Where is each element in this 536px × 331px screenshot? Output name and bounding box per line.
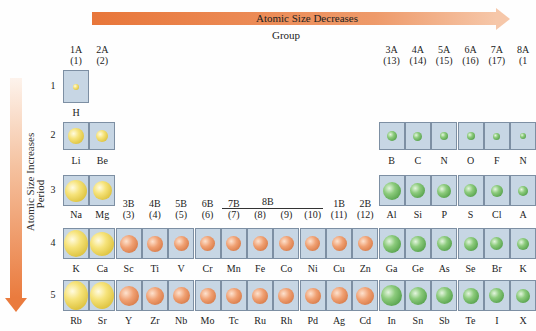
group-header: 7A(17): [484, 44, 510, 66]
group-label-b: (4): [142, 209, 168, 220]
element-cell-tc: [221, 280, 247, 311]
element-cell-a: [510, 175, 536, 206]
atom-sphere-icon: [173, 287, 190, 304]
element-symbol: Ti: [142, 263, 168, 274]
element-symbol: Sn: [405, 315, 431, 326]
element-symbol: Zn: [352, 263, 378, 274]
element-symbol: Sb: [431, 315, 457, 326]
group-label-a: 8A: [510, 44, 536, 55]
group-label-b: (3): [116, 209, 142, 220]
atom-sphere-icon: [358, 236, 373, 251]
element-symbol: Pd: [300, 315, 326, 326]
element-symbol: Mn: [221, 263, 247, 274]
atom-sphere-icon: [174, 236, 189, 251]
element-symbol: Y: [116, 315, 142, 326]
element-cell-nb: [168, 280, 194, 311]
element-cell-i: [484, 280, 510, 311]
atom-sphere-icon: [517, 238, 529, 250]
atom-sphere-icon: [518, 186, 528, 196]
element-symbol: I: [484, 315, 510, 326]
group-header: 5B(5): [168, 198, 194, 220]
element-symbol: Br: [484, 263, 510, 274]
element-symbol: Li: [63, 155, 89, 166]
element-cell-cl: [484, 175, 510, 206]
group-header: (9): [273, 198, 299, 220]
element-cell-f: [484, 122, 510, 150]
element-cell-na: [63, 175, 89, 206]
element-symbol: Se: [458, 263, 484, 274]
element-cell-ge: [405, 228, 431, 259]
group-label-a: 6B: [195, 198, 221, 209]
atom-sphere-icon: [147, 236, 163, 252]
group-label-a: 6A: [458, 44, 484, 55]
arrow-head-right-icon: [496, 8, 510, 30]
group-label-a: [300, 198, 326, 209]
group-label-b: (15): [431, 55, 457, 66]
element-symbol: Co: [273, 263, 299, 274]
element-symbol: S: [458, 209, 484, 220]
element-symbol: Mg: [89, 209, 115, 220]
group-label-a: 3B: [116, 198, 142, 209]
element-cell-p: [431, 175, 457, 206]
atom-sphere-icon: [490, 237, 503, 250]
element-symbol: Fe: [247, 263, 273, 274]
element-symbol: P: [431, 209, 457, 220]
element-cell-mn: [221, 228, 247, 259]
group-header: 8A(1: [510, 44, 536, 66]
element-cell-br: [484, 228, 510, 259]
element-symbol: B: [379, 155, 405, 166]
element-symbol: Rh: [273, 315, 299, 326]
element-symbol: Sr: [89, 315, 115, 326]
element-symbol: F: [484, 155, 510, 166]
element-symbol: N: [510, 155, 536, 166]
group-label-a: 4B: [142, 198, 168, 209]
element-cell-co: [273, 228, 299, 259]
group-header: 1B(11): [326, 198, 352, 220]
period-axis-title: Period: [34, 164, 46, 224]
element-symbol: Sc: [116, 263, 142, 274]
group-label-b: (12): [352, 209, 378, 220]
group-axis-title: Group: [272, 29, 300, 41]
group-header: 3A(13): [379, 44, 405, 66]
atom-sphere-icon: [464, 237, 478, 251]
element-cell-n: [510, 122, 536, 150]
atom-sphere-icon: [410, 236, 426, 252]
atomic-size-decreases-label: Atomic Size Decreases: [256, 12, 358, 25]
atom-sphere-icon: [96, 130, 108, 142]
arrow-head-down-icon: [5, 298, 27, 312]
atom-sphere-icon: [65, 180, 87, 202]
group-header: 1A(1): [63, 44, 89, 66]
atom-sphere-icon: [200, 236, 215, 251]
atom-sphere-icon: [383, 182, 401, 200]
group-label-b: (17): [484, 55, 510, 66]
element-symbol: Cu: [326, 263, 352, 274]
atom-sphere-icon: [491, 185, 503, 197]
element-symbol: As: [431, 263, 457, 274]
atom-sphere-icon: [90, 232, 114, 256]
atomic-size-increases-arrow: [10, 78, 22, 298]
element-cell-rb: [63, 280, 89, 311]
element-symbol: O: [458, 155, 484, 166]
group-label-b: (1: [510, 55, 536, 66]
element-symbol: Rb: [63, 315, 89, 326]
element-symbol: Ge: [405, 263, 431, 274]
group-label-a: 1B: [326, 198, 352, 209]
element-cell-s: [458, 175, 484, 206]
atom-sphere-icon: [463, 288, 479, 304]
group-label-a: 5B: [168, 198, 194, 209]
element-cell-si: [405, 175, 431, 206]
group-header: 2A(2): [89, 44, 115, 66]
element-cell-ga: [379, 228, 405, 259]
group-header: 4B(4): [142, 198, 168, 220]
element-cell-fe: [247, 228, 273, 259]
atom-sphere-icon: [440, 132, 448, 140]
atom-sphere-icon: [410, 183, 425, 198]
atom-sphere-icon: [252, 288, 268, 304]
group-header: 2B(12): [352, 198, 378, 220]
element-cell-rh: [273, 280, 299, 311]
element-symbol: Be: [89, 155, 115, 166]
atom-sphere-icon: [305, 236, 320, 251]
atom-sphere-icon: [64, 281, 88, 310]
group-label-b: (11): [326, 209, 352, 220]
element-symbol: Zr: [142, 315, 168, 326]
